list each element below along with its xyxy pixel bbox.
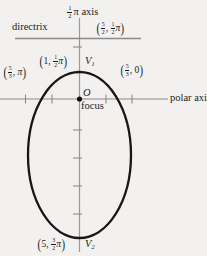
- half-fraction: 1 2: [67, 5, 72, 20]
- point-label-vertex-top-point: ( 1 , 12 π ): [39, 55, 67, 69]
- vertex-bottom-label: V2: [85, 239, 95, 250]
- polar-axis-label: polar axis: [170, 93, 207, 104]
- half-pi-axis-label: 1 2 π axis: [67, 2, 98, 20]
- point-label-directrix-point: ( 52 , 12 π ): [96, 22, 125, 36]
- half-pi-axis-suffix: π axis: [74, 7, 99, 18]
- figure-graphics: [0, 0, 207, 256]
- polar-conic-figure: 1 2 π axis directrix ( 52 , 12 π ) ( 1 ,…: [0, 0, 207, 256]
- point-label-right-point: ( 53 , 0 ): [120, 64, 144, 78]
- directrix-label: directrix: [12, 22, 48, 33]
- point-label-left-point: ( 53 , π ): [3, 66, 27, 80]
- vertex-top-label: V1: [85, 56, 95, 67]
- focus-label: focus: [81, 101, 104, 112]
- point-label-vertex-bottom-point: ( 5 , 32 π ): [37, 238, 65, 252]
- origin-label: O: [83, 88, 91, 99]
